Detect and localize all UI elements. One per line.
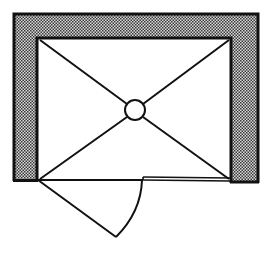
- drain-icon: [125, 100, 145, 120]
- diagonal-bottom-left: [40, 117, 127, 179]
- wall-group: [13, 13, 259, 183]
- diagonal-bottom-right: [143, 117, 229, 179]
- diagram-canvas: Shower enclosure floor plan: [0, 0, 274, 257]
- shower-plan-svg: [0, 0, 274, 257]
- door-swing: [38, 180, 142, 237]
- fixed-glass-panel: [143, 177, 230, 181]
- door-swing-arc: [116, 180, 142, 237]
- diagonal-top-left: [40, 40, 127, 104]
- diagonal-top-right: [143, 40, 229, 104]
- tray-diagonals: [40, 40, 229, 179]
- door-leaf: [38, 180, 116, 237]
